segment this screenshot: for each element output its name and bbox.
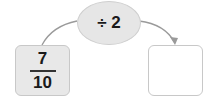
answer-box[interactable] — [148, 45, 203, 96]
arrow-input-to-operation — [42, 21, 77, 45]
arrow-operation-to-output — [139, 21, 175, 43]
fraction-denominator: 10 — [33, 74, 52, 92]
fraction-numerator: 7 — [38, 50, 47, 68]
fraction-bar — [30, 70, 56, 72]
arrowhead-icon — [170, 37, 178, 45]
input-box: 7 10 — [15, 45, 70, 96]
operation-label: ÷ 2 — [97, 13, 121, 33]
operation-oval: ÷ 2 — [77, 1, 141, 45]
